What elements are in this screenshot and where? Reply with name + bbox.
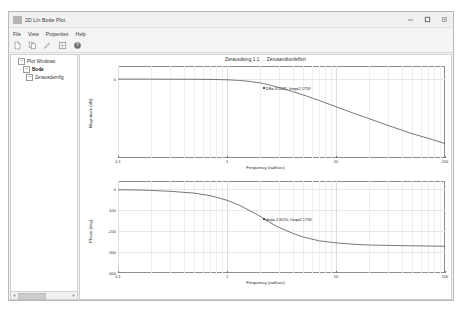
datatip-label: DB=-6.0235, freq=2.1759 [266,86,311,91]
tree-item-bode[interactable]: − Bode [13,65,77,73]
x-tick-label: 10 [334,159,338,164]
x-tick-label: 100 [442,159,449,164]
system-icon [26,74,33,81]
x-tickmark [445,156,446,158]
minimize-button[interactable] [402,13,419,27]
copy-icon[interactable] [28,41,37,50]
scrollbar-thumb[interactable] [18,293,46,300]
window-controls [402,13,453,27]
magnitude-y-axis-label: Magnitude (dB) [88,99,93,128]
svg-text:?: ? [76,43,79,48]
y-tick-label: 0 [102,77,116,82]
toolbar: ? [9,39,453,53]
tree-item-system[interactable]: Zerausdemfig [13,73,77,81]
tree-panel: Plot Windows − Bode Zerausdemfig [10,54,78,300]
bode-plot-window: 2D Lin Bode Plot File View Properties He… [8,11,454,301]
help-icon[interactable]: ? [73,41,82,50]
y-tick-label: -400 [102,271,116,276]
menu-item-view[interactable]: View [28,31,39,37]
y-tick-label: -300 [102,250,116,255]
app-icon [13,16,22,24]
y-tick-label: -200 [102,229,116,234]
phase-y-axis-label: Phase (deg) [88,220,93,243]
edit-icon[interactable] [43,41,52,50]
x-tick-label: 10 [334,274,338,279]
tree-item-label: Bode [32,67,44,72]
menu-bar: File View Properties Help [9,28,453,39]
menu-item-properties[interactable]: Properties [46,31,69,37]
scroll-left-arrow[interactable] [11,292,18,299]
tree-horizontal-scrollbar[interactable] [11,291,77,299]
datatip-label: deg=-2.8220, freq=2.1759 [266,217,312,222]
menu-item-help[interactable]: Help [76,31,86,37]
datatip-marker [263,218,265,220]
magnitude-x-axis-label: Frequency (rad/sec) [80,165,451,170]
window-title: 2D Lin Bode Plot [25,17,402,23]
grid-icon[interactable] [58,41,67,50]
tree-item-label: Plot Windows [27,59,55,64]
scroll-right-arrow[interactable] [70,292,77,299]
plot-panel: Zerausdsing 1:1 → Zerusandtonfeffort DB=… [79,54,452,300]
x-tick-label: 100 [442,274,449,279]
magnitude-datatip[interactable]: DB=-6.0235, freq=2.1759 [263,86,311,91]
title-bar: 2D Lin Bode Plot [9,12,453,28]
new-icon[interactable] [13,41,22,50]
x-tick-label: 1 [226,159,228,164]
tree-item-plot-windows[interactable]: Plot Windows [13,57,77,65]
phase-x-axis-label: Frequency (rad/sec) [80,280,451,285]
y-tick-label: 0 [102,187,116,192]
main-content: Plot Windows − Bode Zerausdemfig [9,53,453,300]
window-icon [18,58,25,65]
x-tick-label: 0.1 [115,274,121,279]
x-tick-label: 1 [226,274,228,279]
plot-title: Zerausdsing 1:1 → Zerusandtonfeffort [80,57,451,62]
x-tickmark [445,271,446,273]
phase-datatip[interactable]: deg=-2.8220, freq=2.1759 [263,217,312,222]
plot-tree: Plot Windows − Bode Zerausdemfig [11,55,77,291]
plot-icon [23,66,30,73]
close-button[interactable] [436,13,453,27]
tree-item-label: Zerausdemfig [35,75,64,80]
x-tick-label: 0.1 [115,159,121,164]
phase-axes: deg=-2.8220, freq=2.1759 Phase (deg) [118,181,445,273]
magnitude-curve [118,66,445,158]
datatip-marker [263,87,265,89]
maximize-button[interactable] [419,13,436,27]
phase-curve [118,181,445,273]
y-tick-label: -100 [102,208,116,213]
magnitude-axes: DB=-6.0235, freq=2.1759 Magnitude (dB) [118,66,445,158]
menu-item-file[interactable]: File [13,31,21,37]
